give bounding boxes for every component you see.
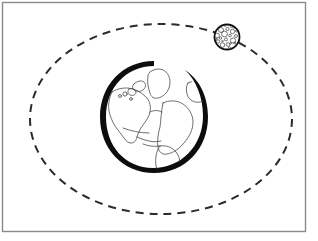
moon (214, 25, 240, 50)
diagram-canvas (0, 0, 318, 241)
earth-moon-orbit-diagram (0, 0, 318, 241)
